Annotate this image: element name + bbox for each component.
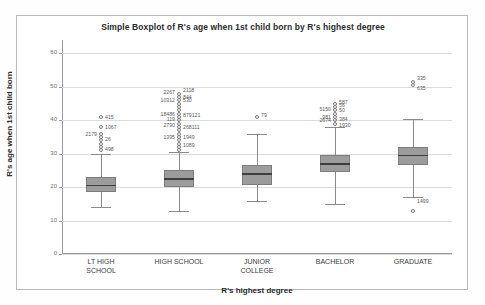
- whisker-upper: [413, 119, 414, 147]
- cap-lower: [169, 211, 189, 212]
- median-line: [320, 163, 350, 165]
- outlier-label: 415: [105, 114, 114, 120]
- box: [398, 147, 428, 165]
- gridline: [62, 87, 452, 88]
- outlier-label: 26: [105, 136, 111, 142]
- cap-upper: [403, 119, 423, 120]
- plot-area: 0102030405060 41510672179264982267211884…: [62, 40, 452, 254]
- outlier-label: 2118: [183, 87, 194, 93]
- outlier-label: 1949: [183, 134, 195, 140]
- x-category-label-line1: JUNIOR: [244, 258, 270, 265]
- outlier-label: 1499: [417, 198, 429, 204]
- cap-lower: [91, 207, 111, 208]
- gridline: [62, 221, 452, 222]
- outlier-label: 268111: [183, 124, 200, 130]
- y-tick-label: 40: [35, 116, 57, 122]
- y-tick-mark: [59, 53, 62, 54]
- x-category-label: JUNIORCOLLEGE: [218, 258, 296, 275]
- y-tick-mark: [59, 120, 62, 121]
- whisker-lower: [335, 172, 336, 204]
- median-line: [86, 185, 116, 187]
- outlier-point: [99, 132, 103, 136]
- cap-upper: [247, 134, 267, 135]
- outlier-point: [99, 115, 103, 119]
- outlier-label: 879121: [183, 112, 200, 118]
- chart-frame: Simple Boxplot of R's age when 1st child…: [16, 15, 468, 290]
- y-tick-mark: [59, 221, 62, 222]
- x-category-label: HIGH SCHOOL: [140, 258, 218, 267]
- whisker-upper: [179, 152, 180, 170]
- outlier-point: [411, 209, 415, 213]
- median-line: [164, 178, 194, 180]
- x-category-label: BACHELOR: [296, 258, 374, 267]
- outlier-label: 5150: [319, 106, 331, 112]
- whisker-lower: [179, 187, 180, 210]
- outlier-label: 50: [339, 107, 345, 113]
- outlier-point: [177, 92, 181, 96]
- y-axis-label: R's age when 1st child born: [5, 71, 14, 176]
- y-tick-mark: [59, 87, 62, 88]
- cap-lower: [247, 201, 267, 202]
- gridline: [62, 120, 452, 121]
- y-tick-label: 10: [35, 217, 57, 223]
- x-category-label-line2: SCHOOL: [62, 267, 140, 276]
- outlier-label: 2790: [163, 122, 175, 128]
- x-category-label-line1: GRADUATE: [394, 258, 432, 265]
- box: [242, 165, 272, 185]
- x-category-label: GRADUATE: [374, 258, 452, 267]
- outlier-label: 384: [339, 116, 348, 122]
- median-line: [242, 173, 272, 175]
- y-axis-line: [62, 40, 63, 254]
- outlier-label: 79: [261, 112, 267, 118]
- outlier-label: 635: [417, 85, 426, 91]
- x-category-label-line1: LT HIGH: [88, 258, 115, 265]
- outlier-point: [255, 115, 259, 119]
- outlier-label: 335: [417, 75, 426, 81]
- chart-screenshot: Simple Boxplot of R's age when 1st child…: [0, 0, 485, 305]
- outlier-label: 1067: [105, 124, 117, 130]
- outlier-label: 2179: [85, 131, 97, 137]
- y-tick-mark: [59, 187, 62, 188]
- whisker-lower: [413, 165, 414, 197]
- x-category-label: LT HIGHSCHOOL: [62, 258, 140, 275]
- outlier-label: 2674: [319, 117, 331, 123]
- y-tick-label: 30: [35, 150, 57, 156]
- median-line: [398, 155, 428, 157]
- outlier-point: [333, 102, 337, 106]
- cap-upper: [91, 154, 111, 155]
- outlier-label: 1930: [339, 122, 351, 128]
- outlier-label: 498: [105, 146, 114, 152]
- outlier-label: 119: [167, 116, 175, 122]
- x-category-label-line1: HIGH SCHOOL: [154, 258, 203, 265]
- outlier-point: [411, 80, 415, 84]
- whisker-lower: [101, 192, 102, 207]
- gridline: [62, 53, 452, 54]
- y-tick-label: 50: [35, 83, 57, 89]
- outlier-label: 10312: [161, 97, 175, 103]
- x-category-label-line2: COLLEGE: [218, 267, 296, 276]
- outlier-point: [99, 125, 103, 129]
- gridline: [62, 254, 452, 255]
- y-tick-mark: [59, 254, 62, 255]
- outlier-label: 1089: [183, 142, 195, 148]
- whisker-upper: [335, 127, 336, 155]
- x-axis-label: R's highest degree: [62, 286, 452, 295]
- whisker-upper: [101, 154, 102, 177]
- y-tick-label: 60: [35, 49, 57, 55]
- whisker-upper: [257, 134, 258, 166]
- outlier-label: 530: [183, 97, 192, 103]
- whisker-lower: [257, 185, 258, 200]
- chart-title: Simple Boxplot of R's age when 1st child…: [17, 22, 469, 32]
- outlier-label: 2267: [163, 89, 175, 95]
- x-category-label-line1: BACHELOR: [316, 258, 355, 265]
- cap-lower: [325, 204, 345, 205]
- outlier-label: 1395: [163, 134, 175, 140]
- y-tick-label: 20: [35, 183, 57, 189]
- y-tick-mark: [59, 154, 62, 155]
- y-tick-label: 0: [35, 250, 57, 256]
